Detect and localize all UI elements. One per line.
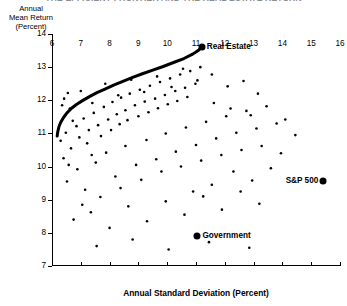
data-point-label-real-estate: Real Estate — [207, 43, 251, 51]
x-tick-label-7: 7 — [79, 40, 84, 48]
y-axis-line — [52, 34, 53, 266]
y-tick-label-14: 14 — [37, 30, 46, 38]
plot-area: 7891011121314 678910111213141516 Real Es… — [52, 34, 340, 266]
y-tick-11 — [48, 133, 52, 134]
y-tick-label-12: 12 — [37, 96, 46, 104]
x-tick-14 — [282, 262, 283, 266]
x-tick-label-10: 10 — [163, 40, 172, 48]
scatter-points — [59, 66, 296, 251]
chart-title-text: THE EFFICIENT FRONTIER AND THE REAL ESTA… — [0, 0, 347, 3]
y-axis-title-line-3: (Percent) — [0, 22, 62, 31]
data-point-real-estate — [198, 44, 205, 51]
y-tick-14 — [48, 34, 52, 35]
x-tick-label-14: 14 — [278, 40, 287, 48]
chart-root: THE EFFICIENT FRONTIER AND THE REAL ESTA… — [0, 0, 347, 306]
x-tick-10 — [167, 262, 168, 266]
x-tick-9 — [138, 262, 139, 266]
y-tick-label-7: 7 — [41, 262, 46, 270]
x-tick-label-15: 15 — [307, 40, 316, 48]
x-tick-label-8: 8 — [107, 40, 112, 48]
y-tick-label-8: 8 — [41, 229, 46, 237]
x-axis-title: Annual Standard Deviation (Percent) — [52, 288, 340, 298]
x-tick-16 — [340, 262, 341, 266]
y-tick-label-9: 9 — [41, 196, 46, 204]
y-tick-9 — [48, 200, 52, 201]
y-tick-label-13: 13 — [37, 63, 46, 71]
y-tick-12 — [48, 100, 52, 101]
data-point-s-p-500 — [320, 178, 327, 185]
y-tick-10 — [48, 167, 52, 168]
y-axis-title-line-1: Annual — [0, 4, 62, 13]
data-point-label-government: Government — [202, 232, 250, 240]
x-tick-12 — [225, 262, 226, 266]
x-tick-7 — [81, 262, 82, 266]
efficient-frontier-curve — [57, 47, 202, 136]
data-point-government — [194, 232, 201, 239]
x-tick-label-16: 16 — [335, 40, 344, 48]
y-tick-label-11: 11 — [38, 129, 47, 137]
x-tick-15 — [311, 262, 312, 266]
y-axis-title: Annual Mean Return (Percent) — [0, 4, 62, 32]
y-axis-title-line-2: Mean Return — [0, 13, 62, 22]
y-tick-8 — [48, 233, 52, 234]
data-point-label-s-p-500: S&P 500 — [286, 177, 319, 185]
x-tick-label-6: 6 — [50, 40, 55, 48]
y-tick-7 — [48, 266, 52, 267]
x-tick-6 — [52, 262, 53, 266]
x-tick-11 — [196, 262, 197, 266]
x-tick-label-9: 9 — [136, 40, 141, 48]
y-tick-label-10: 10 — [37, 163, 46, 171]
y-tick-13 — [48, 67, 52, 68]
x-tick-13 — [254, 262, 255, 266]
x-tick-8 — [110, 262, 111, 266]
